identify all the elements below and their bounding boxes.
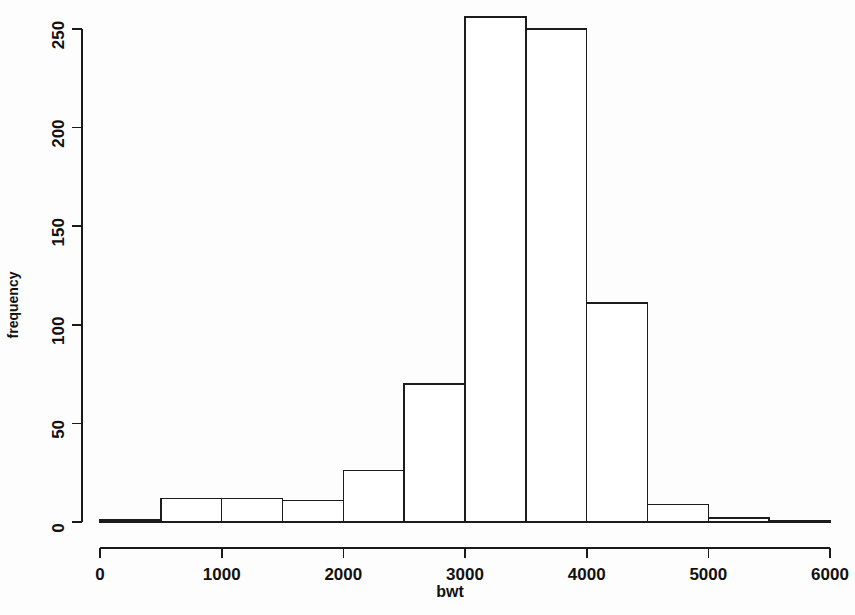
y-tick-label: 100 [49,317,68,345]
histogram-bar [161,498,222,522]
histogram-bar [343,471,404,522]
histogram-figure: 0501001502002500100020003000400050006000… [0,0,855,615]
x-tick-label: 1000 [203,565,241,584]
histogram-bar [648,504,709,522]
histogram-bar [283,500,344,522]
y-tick-label: 0 [49,523,68,532]
x-tick-label: 6000 [811,565,849,584]
histogram-bar [708,518,769,522]
histogram-bar [769,521,830,522]
histogram-bar [404,384,465,522]
y-tick-label: 150 [49,218,68,246]
histogram-bar [100,520,161,522]
y-tick-label: 200 [49,119,68,147]
y-tick-label: 50 [49,420,68,439]
x-tick-label: 5000 [689,565,727,584]
x-tick-label: 2000 [324,565,362,584]
x-tick-label: 4000 [568,565,606,584]
histogram-bar [222,498,283,522]
bars-group [100,17,830,522]
x-tick-label: 3000 [446,565,484,584]
y-tick-label: 250 [49,21,68,49]
plot-canvas: 0501001502002500100020003000400050006000… [0,0,855,615]
histogram-bar [465,17,526,522]
histogram-bar [587,303,648,522]
histogram-bar [526,29,587,522]
x-tick-label: 0 [95,565,104,584]
x-axis-title: bwt [436,583,464,600]
y-axis-title: frequency [5,271,21,338]
